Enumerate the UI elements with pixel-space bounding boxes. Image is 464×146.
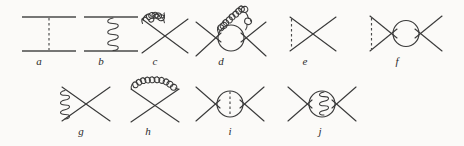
fermion-leg-lower-right (241, 33, 266, 56)
gluon-propagator-vertical (108, 18, 119, 51)
diagram-label-e: e (295, 55, 315, 67)
diagram-label-a: a (29, 55, 49, 67)
loop-bubble (393, 21, 419, 47)
diagram-a (18, 12, 80, 56)
loop-bubble (309, 91, 335, 117)
fermion-leg-lower-left (196, 100, 220, 121)
fermion-leg-upper-left (196, 22, 221, 42)
diagram-label-j: j (310, 125, 330, 137)
diagram-label-f: f (387, 55, 407, 67)
fermion-leg-upper-right (241, 22, 266, 42)
diagram-label-i: i (220, 125, 240, 137)
diagram-f (364, 10, 446, 58)
fermion-leg-lower-right (240, 100, 264, 121)
diagram-g (56, 82, 116, 126)
fermion-leg-upper-left (288, 87, 312, 108)
diagram-label-g: g (71, 125, 91, 137)
diagram-c (136, 10, 194, 58)
fermion-leg-upper-right (332, 87, 356, 108)
diagram-label-d: d (211, 55, 231, 67)
gluon-propagator-vertical (320, 92, 329, 115)
diagram-e (284, 12, 342, 56)
diagram-label-c: c (145, 55, 165, 67)
fermion-leg-lower-right (332, 100, 356, 121)
diagram-label-b: b (91, 55, 111, 67)
diagram-j (284, 82, 360, 126)
diagram-h (124, 78, 186, 126)
diagram-b (80, 12, 142, 56)
diagram-i (192, 82, 268, 126)
diagram-label-h: h (138, 125, 158, 137)
fermion-leg-lower-left (288, 100, 312, 121)
fermion-leg-upper-left (196, 87, 220, 108)
feynman-diagram-figure: a b (0, 0, 464, 146)
fermion-leg-upper-right (240, 87, 264, 108)
gluon-arc-over-loop (217, 6, 251, 34)
gluon-arc (131, 77, 179, 90)
diagram-d (192, 4, 270, 60)
gluon-propagator-vertical (61, 91, 70, 120)
fermion-leg-lower-left (196, 33, 221, 56)
